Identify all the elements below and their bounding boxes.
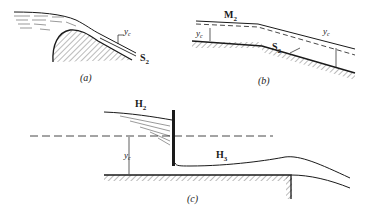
label-h3: H3 bbox=[216, 149, 228, 163]
sluice-gate bbox=[172, 110, 175, 166]
flow-profiles-diagram: yc S2 (a) M2 yc S2 yc (b) yc bbox=[0, 0, 365, 214]
caption-a: (a) bbox=[80, 72, 92, 84]
water-dashes bbox=[14, 16, 76, 30]
label-yc-upstream: yc bbox=[195, 28, 203, 39]
label-s2: S2 bbox=[140, 52, 150, 66]
label-yc: yc bbox=[123, 26, 131, 37]
label-yc: yc bbox=[123, 150, 131, 161]
label-m2: M2 bbox=[224, 9, 237, 23]
panel-b: M2 yc S2 yc (b) bbox=[192, 9, 355, 87]
caption-c: (c) bbox=[187, 193, 199, 205]
label-yc-downstream: yc bbox=[322, 26, 330, 37]
upstream-water-surface bbox=[104, 112, 172, 120]
label-h2: H2 bbox=[135, 98, 147, 112]
upstream-water-hatch bbox=[120, 116, 170, 145]
panel-a: yc S2 (a) bbox=[14, 12, 150, 84]
caption-b: (b) bbox=[258, 75, 270, 87]
panel-c: yc H2 H3 (c) bbox=[30, 98, 350, 205]
